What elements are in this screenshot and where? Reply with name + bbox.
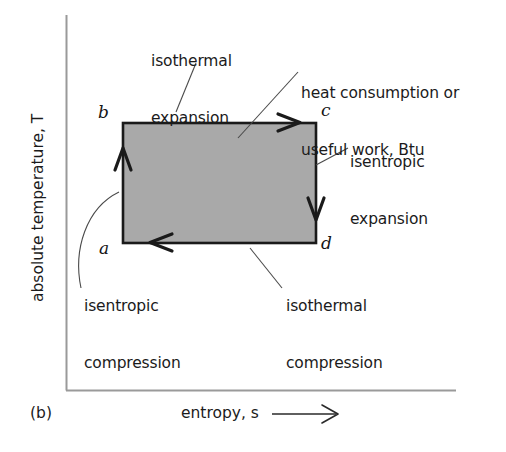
annotation-isothermal-expansion-line2: expansion	[151, 109, 232, 128]
annotation-isothermal-compression: isothermal compression	[286, 259, 383, 411]
annotation-isentropic-expansion-line1: isentropic	[350, 153, 428, 172]
annotation-isentropic-compression: isentropic compression	[84, 259, 181, 411]
carnot-cycle-ts-diagram: absolute temperature, T entropy, s (b) b…	[0, 0, 506, 452]
annotation-isothermal-compression-line2: compression	[286, 354, 383, 373]
annotation-isothermal-compression-line1: isothermal	[286, 297, 383, 316]
point-label-a: a	[99, 240, 109, 257]
x-axis-label: entropy, s	[181, 404, 259, 422]
annotation-isothermal-expansion: isothermal expansion	[151, 14, 232, 166]
point-label-d: d	[321, 235, 332, 252]
annotation-isentropic-compression-line1: isentropic	[84, 297, 181, 316]
leader-isothermal-compression	[250, 248, 282, 288]
point-label-b: b	[98, 104, 109, 121]
y-axis-label: absolute temperature, T	[30, 114, 46, 302]
annotation-isentropic-expansion: isentropic expansion	[350, 115, 428, 267]
annotation-isentropic-compression-line2: compression	[84, 354, 181, 373]
annotation-heat-consumption-line1: heat consumption or	[301, 84, 459, 103]
annotation-isentropic-expansion-line2: expansion	[350, 210, 428, 229]
annotation-isothermal-expansion-line1: isothermal	[151, 52, 232, 71]
panel-label: (b)	[30, 404, 52, 422]
